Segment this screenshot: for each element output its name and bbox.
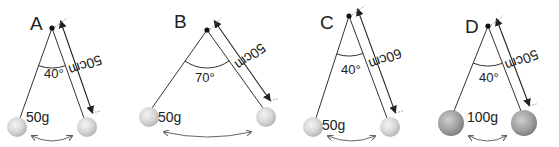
pivot-dot	[49, 25, 54, 30]
pendulum-label: D	[465, 16, 479, 37]
swing-arc-arrow	[164, 132, 251, 137]
swing-arc-arrow	[469, 136, 506, 141]
bob-right	[77, 117, 97, 137]
bob-right	[256, 107, 276, 127]
extension-line-bottom	[92, 111, 100, 113]
angle-arc	[337, 53, 364, 56]
bob-left	[303, 117, 323, 137]
swing-arc-arrow	[328, 136, 375, 141]
extension-line-bottom	[270, 99, 278, 101]
pivot-dot	[485, 23, 490, 28]
pendulum-c: 60cmC40°50g	[303, 6, 404, 141]
pendulum-d: 50cmD40°100g	[438, 16, 541, 141]
mass-label: 100g	[467, 109, 498, 125]
pivot-dot	[204, 27, 209, 32]
swing-arc-arrow	[32, 136, 72, 141]
bob-left	[139, 107, 159, 127]
pendulum-diagram-canvas: 50cmA40°50g50cmB70°50g60cmC40°50g50cmD40…	[0, 0, 559, 147]
string-left	[152, 30, 207, 108]
pendulum-label: C	[320, 12, 334, 33]
bob-right	[380, 117, 400, 137]
mass-label: 50g	[158, 109, 181, 125]
bob-left	[438, 110, 464, 136]
angle-label: 70°	[195, 70, 215, 85]
extension-line-bottom	[529, 104, 537, 106]
angle-arc	[185, 61, 229, 68]
length-label: 50cm	[232, 40, 269, 73]
pendulum-diagram: 50cmA40°50g50cmB70°50g60cmC40°50g50cmD40…	[0, 0, 559, 147]
mass-label: 50g	[26, 109, 49, 125]
mass-label: 50g	[322, 117, 345, 133]
pendulum-label: A	[30, 13, 43, 34]
bob-left	[7, 117, 27, 137]
string-left	[454, 26, 488, 111]
bob-right	[511, 110, 537, 136]
pendulum-label: B	[174, 11, 187, 32]
angle-label: 40°	[479, 70, 499, 85]
pivot-dot	[346, 13, 351, 18]
angle-arc	[473, 63, 503, 66]
angle-label: 40°	[341, 62, 361, 77]
pendulum-b: 50cmB70°50g	[139, 11, 278, 137]
string-right	[207, 30, 263, 108]
pendulum-a: 50cmA40°50g	[7, 13, 104, 141]
extension-line-bottom	[395, 111, 403, 113]
angle-label: 40°	[44, 66, 64, 81]
